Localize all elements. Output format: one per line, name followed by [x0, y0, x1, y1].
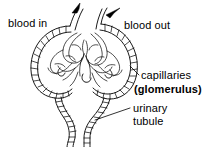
urinary-tubule	[55, 97, 110, 147]
capillary-knots	[58, 68, 112, 82]
leader-line-tubule	[95, 108, 130, 120]
label-blood-out: blood out	[124, 19, 170, 31]
bowmans-capsule	[31, 24, 138, 99]
arrow-blood-out	[106, 8, 120, 18]
arrow-blood-in	[72, 3, 80, 13]
label-tubule: tubule	[133, 115, 164, 127]
label-urinary: urinary	[133, 102, 168, 114]
label-capillaries: capillaries	[141, 69, 191, 81]
tubule-cell-ticks-right	[84, 102, 109, 143]
label-blood-in: blood in	[8, 17, 47, 29]
capillary-tuft	[48, 33, 122, 87]
label-glomerulus: (glomerulus)	[134, 83, 202, 95]
nephron-diagram: blood in blood out capillaries (glomerul…	[0, 0, 212, 147]
